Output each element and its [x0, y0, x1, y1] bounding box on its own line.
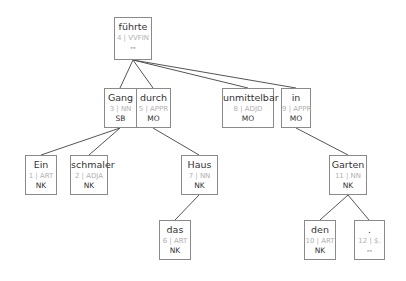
node-ein[interactable]: Ein 1 | ART NK	[25, 155, 57, 195]
node-edge-label: NK	[26, 181, 56, 191]
edge-durch-haus	[153, 128, 199, 155]
node-gang[interactable]: Gang 3 | NN SB	[104, 88, 137, 128]
node-word: unmittelbar	[223, 92, 273, 104]
node-pos: 12 | $.	[355, 236, 384, 246]
node-garten[interactable]: Garten 11 | NN NK	[329, 155, 367, 195]
node-edge-label: NK	[71, 181, 107, 191]
node-pos: 4 | VVFIN	[115, 33, 151, 43]
node-schmaler[interactable]: schmaler 2 | ADJA NK	[70, 155, 108, 195]
node-pos: 1 | ART	[26, 171, 56, 181]
node-word: Gang	[105, 92, 136, 104]
node-word: Haus	[182, 159, 217, 171]
node-edge-label: MO	[282, 114, 310, 124]
edge-gang-ein	[41, 128, 120, 155]
node-word: führte	[115, 21, 151, 33]
node-pos: 2 | ADJA	[71, 171, 107, 181]
edge-garten-period	[348, 195, 369, 220]
node-pos: 3 | NN	[105, 104, 136, 114]
node-unmittelbar[interactable]: unmittelbar 8 | ADJD MO	[222, 88, 274, 128]
node-edge-label: --	[115, 43, 151, 53]
node-word: schmaler	[71, 159, 107, 171]
node-edge-label: MO	[137, 114, 170, 124]
node-pos: 5 | APPR	[137, 104, 170, 114]
node-das[interactable]: das 6 | ART NK	[159, 220, 191, 260]
node-pos: 11 | NN	[330, 171, 366, 181]
dependency-edges	[0, 0, 406, 281]
edge-haus-das	[175, 195, 199, 220]
node-word: .	[355, 224, 384, 236]
node-edge-label: NK	[182, 181, 217, 191]
node-word: durch	[137, 92, 170, 104]
node-pos: 7 | NN	[182, 171, 217, 181]
node-edge-label: NK	[330, 181, 366, 191]
node-word: das	[160, 224, 190, 236]
edge-garten-den	[320, 195, 348, 220]
node-fuhrte[interactable]: führte 4 | VVFIN --	[114, 17, 152, 60]
node-pos: 9 | APPR	[282, 104, 310, 114]
node-edge-label: NK	[305, 246, 335, 256]
edge-fuhrte-gang	[120, 60, 133, 88]
node-haus[interactable]: Haus 7 | NN NK	[181, 155, 218, 195]
edge-in-garten	[296, 128, 348, 155]
node-in[interactable]: in 9 | APPR MO	[281, 88, 311, 128]
edge-gang-schmaler	[89, 128, 120, 155]
edge-fuhrte-in	[133, 60, 296, 88]
node-word: Garten	[330, 159, 366, 171]
node-edge-label: --	[355, 246, 384, 256]
node-durch[interactable]: durch 5 | APPR MO	[136, 88, 171, 128]
node-pos: 10 | ART	[305, 236, 335, 246]
node-pos: 8 | ADJD	[223, 104, 273, 114]
node-word: in	[282, 92, 310, 104]
node-edge-label: SB	[105, 114, 136, 124]
node-word: Ein	[26, 159, 56, 171]
node-period[interactable]: . 12 | $. --	[354, 220, 385, 260]
node-edge-label: NK	[160, 246, 190, 256]
node-pos: 6 | ART	[160, 236, 190, 246]
node-den[interactable]: den 10 | ART NK	[304, 220, 336, 260]
node-edge-label: MO	[223, 114, 273, 124]
node-word: den	[305, 224, 335, 236]
